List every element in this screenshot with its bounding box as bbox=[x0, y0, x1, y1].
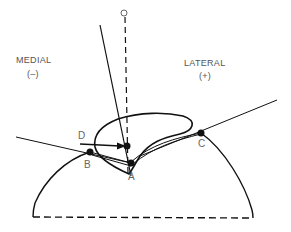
closed-loop-outline bbox=[95, 113, 193, 174]
point-c-marker bbox=[198, 130, 205, 137]
outer-outline-right bbox=[201, 133, 253, 218]
outer-outline-left bbox=[33, 152, 90, 217]
point-o-marker bbox=[121, 10, 127, 16]
label-point-d: D bbox=[78, 130, 85, 141]
label-lateral: LATERAL bbox=[184, 58, 225, 68]
point-b-marker bbox=[87, 149, 94, 156]
label-point-b: B bbox=[84, 159, 91, 170]
label-lateral-sign: (+) bbox=[199, 71, 211, 81]
arrow-d-shaft bbox=[80, 144, 120, 146]
dashed-base-line bbox=[33, 217, 253, 218]
point-a-marker bbox=[128, 160, 135, 167]
label-point-c: C bbox=[198, 138, 205, 149]
segment-b-a bbox=[90, 152, 131, 163]
label-medial: MEDIAL bbox=[16, 55, 51, 65]
point-d-target-marker bbox=[124, 143, 131, 150]
segment-a-c-inner bbox=[133, 134, 201, 164]
anatomical-diagram: MEDIAL (–) LATERAL (+) A B C D bbox=[0, 0, 291, 232]
label-point-a: A bbox=[128, 171, 135, 182]
label-medial-sign: (–) bbox=[27, 69, 39, 79]
